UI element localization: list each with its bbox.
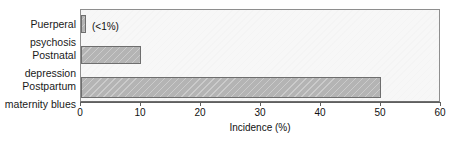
category-label-text: Postpartum maternity blues bbox=[5, 80, 76, 110]
x-axis-tick-label: 50 bbox=[365, 107, 395, 118]
x-axis-tick-label: 30 bbox=[245, 107, 275, 118]
x-axis-tick-label: 60 bbox=[425, 107, 454, 118]
x-axis-tick bbox=[380, 102, 381, 106]
bar-chart: Puerperal psychosis Postnatal depression… bbox=[0, 0, 454, 145]
x-axis-tick-label: 0 bbox=[65, 107, 95, 118]
bar-postpartum-maternity-blues bbox=[81, 77, 381, 98]
bar-postnatal-depression bbox=[81, 46, 141, 64]
annotation-less-than-one-percent: (<1%) bbox=[92, 21, 119, 32]
x-axis-tick-label: 20 bbox=[185, 107, 215, 118]
bar-puerperal-psychosis bbox=[81, 15, 86, 33]
x-axis-tick-label: 10 bbox=[125, 107, 155, 118]
x-axis-label: Incidence (%) bbox=[80, 122, 440, 133]
x-axis-tick bbox=[260, 102, 261, 106]
category-label-text: Puerperal psychosis bbox=[30, 18, 76, 48]
category-label-text: Postnatal depression bbox=[25, 49, 76, 79]
plot-area bbox=[80, 9, 440, 102]
x-axis-tick bbox=[440, 102, 441, 106]
x-axis-tick bbox=[80, 102, 81, 106]
x-axis-tick bbox=[140, 102, 141, 106]
x-axis-tick bbox=[200, 102, 201, 106]
x-axis-tick-label: 40 bbox=[305, 107, 335, 118]
x-axis-tick bbox=[320, 102, 321, 106]
